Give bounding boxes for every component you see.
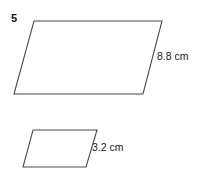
- worksheet-figure-panel: 5 8.8 cm 3.2 cm: [0, 0, 200, 177]
- large-parallelogram-side-label: 8.8 cm: [157, 51, 189, 62]
- small-parallelogram-side-label: 3.2 cm: [92, 142, 124, 153]
- large-parallelogram-shape: [14, 21, 162, 94]
- small-parallelogram-shape: [23, 130, 97, 167]
